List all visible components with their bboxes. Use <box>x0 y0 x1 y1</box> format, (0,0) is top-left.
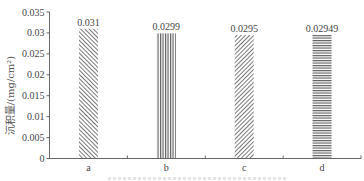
bar-value-label: 0.02949 <box>306 23 339 34</box>
bar-c: 0.0295 <box>230 23 258 158</box>
bar-value-label: 0.0295 <box>230 23 258 34</box>
bar-chart: 00.0050.010.0150.020.0250.030.035 abcd 0… <box>0 0 364 181</box>
bar-value-label: 0.031 <box>77 17 100 28</box>
bars: 0.0310.02990.02950.02949 <box>77 17 338 159</box>
y-tick-label: 0 <box>40 153 45 164</box>
y-axis-label: 沉积量/(mg/cm²) <box>3 40 17 150</box>
y-axis-ticks: 00.0050.010.0150.020.0250.030.035 <box>22 7 50 165</box>
bar-d: 0.02949 <box>306 23 339 158</box>
y-tick-label: 0.035 <box>22 7 45 18</box>
x-tick-label: a <box>86 162 91 173</box>
y-tick-label: 0.015 <box>22 90 45 101</box>
y-tick-label: 0.01 <box>27 111 45 122</box>
bar-a: 0.031 <box>77 17 100 159</box>
figure-caption-cutoff <box>108 174 288 181</box>
y-tick-label: 0.005 <box>22 132 45 143</box>
y-axis-label-text: 沉积量/(mg/cm²) <box>3 55 18 135</box>
y-tick-label: 0.02 <box>27 69 45 80</box>
x-tick-label: b <box>164 162 169 173</box>
bar-value-label: 0.0299 <box>153 21 181 32</box>
caption-fragment <box>108 177 288 180</box>
y-tick-label: 0.03 <box>27 27 45 38</box>
y-tick-label: 0.025 <box>22 48 45 59</box>
bar-b: 0.0299 <box>153 21 181 158</box>
x-tick-label: c <box>242 162 247 173</box>
x-tick-label: d <box>320 162 325 173</box>
